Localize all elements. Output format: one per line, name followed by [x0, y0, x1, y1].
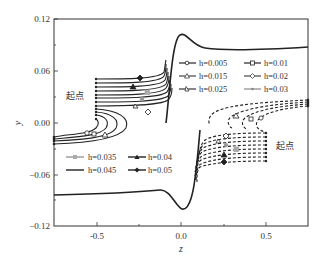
svg-text:h=0.035: h=0.035: [88, 152, 116, 162]
chart: 0.12 0.06 0.00 −0.06 −0.12 y -0.5 0.0 0.…: [0, 0, 320, 260]
legend-item: h=0.03: [244, 84, 288, 94]
legend-item: h=0.045: [66, 165, 116, 175]
start-point-label-right: 起点: [276, 141, 294, 151]
x-axis-label: z: [178, 243, 183, 254]
y-axis: [54, 19, 58, 200]
svg-text:h=0.05: h=0.05: [148, 165, 172, 175]
legend-upper: h=0.005 h=0.01 h=0.015 h=0.02 h=0.025 h=…: [179, 58, 288, 94]
svg-text:h=0.04: h=0.04: [148, 152, 173, 162]
y-axis-label: y: [12, 120, 23, 126]
legend-item: h=0.035: [66, 152, 116, 162]
plot-frame: [54, 19, 308, 226]
svg-text:h=0.005: h=0.005: [199, 58, 227, 68]
legend-item: h=0.015: [179, 71, 227, 81]
y-tick-label: −0.12: [29, 221, 50, 231]
legend-item: h=0.025: [179, 84, 227, 94]
left-solid-family: [54, 60, 172, 144]
x-axis: [97, 222, 266, 226]
legend-item: h=0.04: [128, 152, 173, 162]
svg-text:h=0.02: h=0.02: [264, 71, 288, 81]
start-point-label-left: 起点: [66, 91, 84, 101]
x-tick-label: 0.0: [175, 231, 187, 241]
svg-text:h=0.01: h=0.01: [264, 58, 288, 68]
legend-lower: h=0.035 h=0.04 h=0.045 h=0.05: [66, 152, 173, 175]
y-tick-label: 0.00: [34, 118, 50, 128]
svg-text:h=0.025: h=0.025: [199, 84, 227, 94]
legend-item: h=0.02: [244, 71, 288, 81]
y-tick-label: −0.06: [29, 170, 50, 180]
svg-text:h=0.015: h=0.015: [199, 71, 227, 81]
x-tick-label: 0.5: [260, 231, 272, 241]
legend-item: h=0.01: [244, 58, 288, 68]
y-tick-label: 0.06: [34, 66, 50, 76]
legend-item: h=0.005: [179, 58, 227, 68]
svg-text:h=0.03: h=0.03: [264, 84, 288, 94]
x-tick-label: -0.5: [90, 231, 105, 241]
svg-text:h=0.045: h=0.045: [88, 165, 116, 175]
y-tick-label: 0.12: [34, 14, 50, 24]
legend-item: h=0.05: [128, 165, 172, 175]
